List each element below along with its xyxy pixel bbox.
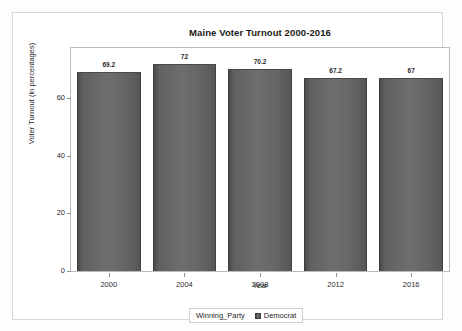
y-axis-tick-mark [67, 271, 71, 272]
x-axis-title: Year [70, 281, 450, 290]
legend-item-label: Democrat [264, 311, 297, 320]
x-axis-tick-mark [184, 273, 185, 277]
bar-value-label: 72 [149, 53, 219, 60]
y-axis-tick-label: 20 [45, 209, 65, 217]
page-title: Maine Voter Turnout 2000-2016 [70, 27, 450, 38]
y-axis-tick-label: 0 [45, 267, 65, 275]
y-axis-tick-label: 40 [45, 152, 65, 160]
y-axis-title: Voter Turnout (in percentages) [27, 14, 36, 174]
bar-value-label: 69.2 [74, 61, 144, 68]
legend-item-democrat: Democrat [255, 311, 297, 320]
plot-area: 020406069.2200072200470.2200867.22012672… [70, 47, 450, 272]
bar-value-label: 67 [376, 67, 446, 74]
x-axis-tick-mark [411, 273, 412, 277]
chart-legend: Winning_Party Democrat [189, 308, 303, 323]
y-axis-tick-label: 60 [45, 94, 65, 102]
bar-2008[interactable] [228, 69, 292, 271]
bar-2016[interactable] [379, 78, 443, 271]
legend-title: Winning_Party [196, 311, 245, 320]
y-axis-tick-mark [67, 156, 71, 157]
plot-inner: 020406069.2200072200470.2200867.22012672… [71, 48, 449, 271]
figure-frame: Maine Voter Turnout 2000-2016 Voter Turn… [12, 12, 443, 320]
bar-2004[interactable] [153, 64, 217, 271]
x-axis-tick-mark [336, 273, 337, 277]
bar-2000[interactable] [77, 72, 141, 271]
chart-screenshot: Maine Voter Turnout 2000-2016 Voter Turn… [0, 0, 462, 331]
x-axis-tick-mark [109, 273, 110, 277]
legend-swatch-icon [255, 313, 261, 319]
bar-2012[interactable] [304, 78, 368, 271]
bar-value-label: 70.2 [225, 58, 295, 65]
bar-value-label: 67.2 [301, 67, 371, 74]
y-axis-tick-mark [67, 98, 71, 99]
x-axis-tick-mark [260, 273, 261, 277]
y-axis-tick-mark [67, 213, 71, 214]
